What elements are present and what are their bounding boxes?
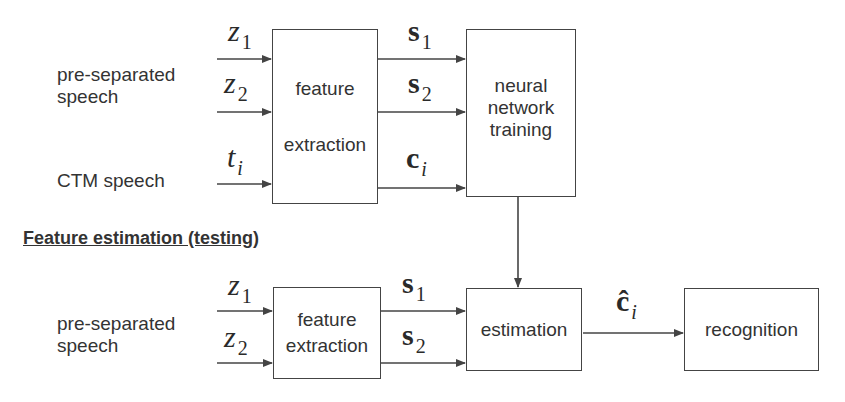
subscript: 2 (238, 337, 248, 359)
label-line: pre-separated (57, 313, 175, 335)
signal-z2-train: z2 (224, 66, 248, 106)
subscript: 2 (416, 335, 426, 357)
feature-extraction-box-test: feature extraction (273, 287, 381, 379)
estimation-box: estimation (466, 288, 582, 371)
box-label: feature (297, 309, 356, 331)
section-heading-testing: Feature estimation (testing) (23, 228, 259, 249)
signal-ti-train: ti (227, 140, 243, 180)
block-diagram: pre-separated speech CTM speech z1 z2 ti… (0, 0, 845, 402)
symbol: s (408, 66, 420, 99)
box-label: feature (295, 78, 354, 100)
subscript: 1 (422, 31, 432, 53)
box-label: network (488, 97, 555, 119)
subscript: 1 (242, 31, 252, 53)
box-label: neural (495, 75, 548, 97)
input-label-preseparated-test: pre-separated speech (57, 313, 175, 357)
label-line: pre-separated (57, 64, 175, 86)
subscript: 1 (242, 285, 252, 307)
subscript: 2 (422, 83, 432, 105)
input-label-preseparated-train: pre-separated speech (57, 64, 175, 108)
symbol: t (227, 140, 235, 173)
symbol: ĉ (616, 284, 629, 317)
box-label: recognition (705, 319, 798, 341)
symbol: z (228, 268, 240, 301)
subscript: 1 (416, 283, 426, 305)
signal-z1-train: z1 (228, 14, 252, 54)
signal-s2-test: s2 (402, 318, 426, 358)
label-line: speech (57, 86, 175, 108)
symbol: z (224, 320, 236, 353)
symbol: z (228, 14, 240, 47)
signal-ci-train: ci (406, 141, 427, 181)
feature-extraction-box-train: feature extraction (272, 29, 378, 204)
signal-z1-test: z1 (228, 268, 252, 308)
box-label: extraction (284, 134, 366, 156)
symbol: z (224, 66, 236, 99)
subscript: 2 (238, 83, 248, 105)
neural-network-training-box: neural network training (466, 29, 576, 197)
symbol: s (402, 318, 414, 351)
box-label: training (490, 119, 552, 141)
symbol: c (406, 141, 419, 174)
recognition-box: recognition (684, 288, 819, 371)
signal-s1-train: s1 (408, 14, 432, 54)
symbol: s (402, 266, 414, 299)
symbol: s (408, 14, 420, 47)
signal-ci-hat: ĉi (616, 284, 637, 324)
signal-z2-test: z2 (224, 320, 248, 360)
box-label: extraction (286, 335, 368, 357)
signal-s2-train: s2 (408, 66, 432, 106)
signal-s1-test: s1 (402, 266, 426, 306)
subscript: i (631, 301, 637, 323)
input-label-ctm: CTM speech (57, 170, 165, 192)
subscript: i (237, 157, 243, 179)
subscript: i (421, 158, 427, 180)
label-line: speech (57, 335, 175, 357)
box-label: estimation (481, 319, 568, 341)
